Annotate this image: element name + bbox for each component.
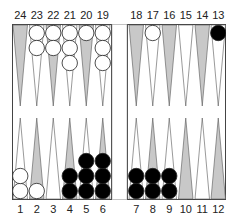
point-label-4: 4 — [62, 203, 78, 215]
white-checker[interactable] — [62, 25, 77, 40]
point-label-11: 11 — [194, 203, 210, 215]
black-checker[interactable] — [62, 168, 77, 183]
white-checker[interactable] — [79, 25, 94, 40]
point-label-5: 5 — [78, 203, 94, 215]
white-checker[interactable] — [145, 25, 160, 40]
point-label-13: 13 — [210, 9, 226, 21]
white-checker[interactable] — [62, 40, 77, 55]
white-checker[interactable] — [29, 40, 44, 55]
black-checker[interactable] — [129, 183, 144, 198]
point-label-16: 16 — [161, 9, 177, 21]
white-checker[interactable] — [29, 25, 44, 40]
point-label-17: 17 — [145, 9, 161, 21]
black-checker[interactable] — [95, 153, 110, 168]
point-label-15: 15 — [178, 9, 194, 21]
point-label-23: 23 — [29, 9, 45, 21]
black-checker[interactable] — [129, 168, 144, 183]
point-label-3: 3 — [45, 203, 61, 215]
point-label-10: 10 — [178, 203, 194, 215]
white-checker[interactable] — [95, 40, 110, 55]
point-label-6: 6 — [95, 203, 111, 215]
point-label-18: 18 — [128, 9, 144, 21]
point-label-21: 21 — [62, 9, 78, 21]
point-label-20: 20 — [78, 9, 94, 21]
black-checker[interactable] — [211, 25, 226, 40]
black-checker[interactable] — [62, 183, 77, 198]
point-label-1: 1 — [12, 203, 28, 215]
black-checker[interactable] — [145, 183, 160, 198]
white-checker[interactable] — [13, 168, 28, 183]
point-label-2: 2 — [29, 203, 45, 215]
white-checker[interactable] — [95, 25, 110, 40]
black-checker[interactable] — [79, 168, 94, 183]
white-checker[interactable] — [46, 40, 61, 55]
point-label-8: 8 — [145, 203, 161, 215]
white-checker[interactable] — [13, 183, 28, 198]
point-label-12: 12 — [210, 203, 226, 215]
backgammon-board — [12, 24, 226, 200]
point-label-22: 22 — [45, 9, 61, 21]
point-label-7: 7 — [128, 203, 144, 215]
point-label-9: 9 — [161, 203, 177, 215]
white-checker[interactable] — [62, 55, 77, 70]
point-label-19: 19 — [95, 9, 111, 21]
point-label-14: 14 — [194, 9, 210, 21]
black-checker[interactable] — [162, 183, 177, 198]
black-checker[interactable] — [79, 183, 94, 198]
white-checker[interactable] — [95, 55, 110, 70]
black-checker[interactable] — [162, 168, 177, 183]
black-checker[interactable] — [79, 153, 94, 168]
bar[interactable] — [112, 25, 127, 200]
white-checker[interactable] — [46, 25, 61, 40]
point-label-24: 24 — [12, 9, 28, 21]
black-checker[interactable] — [95, 183, 110, 198]
white-checker[interactable] — [29, 183, 44, 198]
black-checker[interactable] — [145, 168, 160, 183]
black-checker[interactable] — [95, 168, 110, 183]
